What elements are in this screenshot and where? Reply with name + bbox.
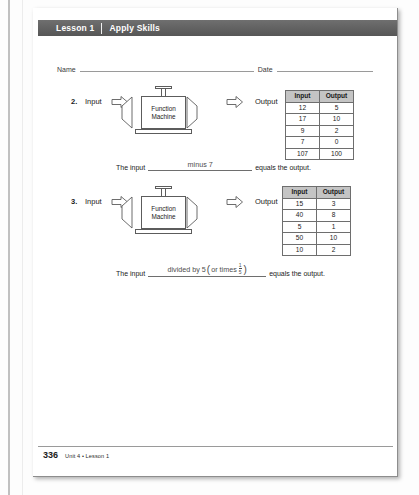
table-row: 17 10 [286,114,354,126]
machine-body: Function Machine [141,96,186,129]
footer-divider [38,446,393,447]
table-row: 5 1 [283,221,351,233]
problem-2-input-label: Input [85,97,102,106]
lesson-number: Lesson 1 [38,23,101,33]
machine-output-funnel [186,196,198,233]
problem-2-io-table: Input Output 12 5 17 10 [285,90,354,160]
name-date-row: Name Date [57,60,377,74]
page-footer: 336 Unit 4 • Lesson 1 [43,450,109,460]
table-header-row: Input Output [283,187,351,199]
column-header-input: Input [283,187,317,199]
paren-open: ( [207,265,210,275]
column-header-input: Input [286,91,320,103]
cell-output: 3 [317,198,351,210]
paren-close: ) [244,265,247,275]
problem-2-answer-blank[interactable]: minus 7 [148,160,252,171]
worksheet-page: Lesson 1 Apply Skills Name Date 2. Input [33,8,398,477]
answer-suffix: equals the output. [269,270,325,277]
cell-output: 100 [320,148,354,160]
cell-output: 8 [317,210,351,222]
table-row: 9 2 [286,125,354,137]
problem-3-io-table: Input Output 15 3 40 8 [282,186,351,256]
book-spine-edge [8,0,10,495]
table-row: 12 5 [286,102,354,114]
machine-body: Function Machine [141,196,186,229]
cell-output: 2 [317,244,351,256]
cell-input: 40 [283,210,317,222]
problem-3-answer-blank[interactable]: divided by 5 ( or times 1 5 ) [148,263,266,277]
date-input-line[interactable] [277,70,373,72]
problem-3-diagram-row: 3. Input [33,186,397,248]
cell-input: 17 [286,114,320,126]
book-page-edge [22,0,23,495]
answer-prefix: The input [116,270,145,277]
problem-2-number: 2. [71,97,77,106]
table-row: 40 8 [283,210,351,222]
problem-3-answer-sentence: The input divided by 5 ( or times 1 5 ) … [116,263,325,277]
cell-input: 10 [283,244,317,256]
machine-label-line1: Function [151,205,176,213]
cell-input: 15 [283,198,317,210]
answer-suffix: equals the output. [255,164,311,171]
cell-output: 2 [320,125,354,137]
cell-input: 107 [286,148,320,160]
answer-prefix: The input [116,164,145,171]
machine-knob-stem [161,189,166,196]
machine-input-funnel [121,96,133,133]
problem-2-answer-sentence: The input minus 7 equals the output. [116,160,311,171]
cell-output: 10 [317,233,351,245]
problem-2-diagram-row: 2. Input [33,86,397,148]
cell-input: 5 [283,221,317,233]
cell-output: 0 [320,137,354,149]
date-label: Date [258,66,273,74]
name-input-line[interactable] [80,70,254,72]
machine-base [135,229,192,234]
table-row: 10 2 [283,244,351,256]
machine-label-line1: Function [151,105,176,113]
table-header-row: Input Output [286,91,354,103]
problem-3: 3. Input [33,186,397,248]
cell-input: 50 [283,233,317,245]
machine-base [135,129,192,134]
machine-label-line2: Machine [151,213,175,221]
output-arrow-icon [226,195,244,213]
cell-input: 7 [286,137,320,149]
problem-3-answer-text: divided by 5 ( or times 1 5 ) [167,263,246,275]
unit-lesson-label: Unit 4 • Lesson 1 [58,453,109,459]
problem-3-output-label: Output [255,197,278,206]
lesson-title: Apply Skills [102,23,160,33]
problem-3-input-label: Input [85,197,102,206]
machine-output-funnel [186,96,198,133]
machine-knob-stem [161,89,166,96]
scan-background: Lesson 1 Apply Skills Name Date 2. Input [0,0,419,495]
machine-label-line2: Machine [151,113,175,121]
column-header-output: Output [320,91,354,103]
fraction-denominator: 5 [239,268,242,275]
machine-input-funnel [121,196,133,233]
problem-2-answer-text: minus 7 [188,160,213,169]
cell-input: 9 [286,125,320,137]
cell-input: 12 [286,102,320,114]
answer-operation: divided by 5 [167,265,205,274]
table-row: 15 3 [283,198,351,210]
name-label: Name [57,66,76,74]
cell-output: 1 [317,221,351,233]
problem-2: 2. Input [33,86,397,148]
cell-output: 10 [320,114,354,126]
table-row: 7 0 [286,137,354,149]
page-number: 336 [43,450,58,460]
column-header-output: Output [317,187,351,199]
problem-2-output-label: Output [255,97,278,106]
problem-3-number: 3. [71,197,77,206]
lesson-header-band: Lesson 1 Apply Skills [38,20,397,36]
answer-alt-operation: or times [211,265,237,274]
cell-output: 5 [320,102,354,114]
header-divider [101,23,102,34]
table-row: 50 10 [283,233,351,245]
fraction-one-fifth: 1 5 [239,263,242,275]
output-arrow-icon [226,95,244,113]
table-row: 107 100 [286,148,354,160]
